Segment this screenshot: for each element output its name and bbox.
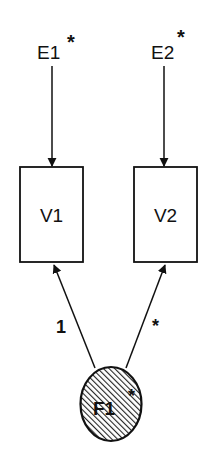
observed-node-v2: V2 (134, 167, 197, 262)
e2-star-marker: * (177, 26, 185, 48)
path-diagram: E1 * E2 * V1 V2 1 * F1 * (0, 0, 210, 470)
f1-label: F1 (93, 398, 116, 419)
e1-label: E1 (37, 42, 60, 63)
error-node-e1: E1 * (37, 31, 75, 63)
latent-node-f1: F1 * (81, 367, 142, 441)
e2-label: E2 (151, 42, 174, 63)
f1-star-marker: * (128, 386, 135, 406)
observed-node-v1: V1 (20, 167, 83, 262)
error-node-e2: E2 * (151, 26, 185, 63)
e1-star-marker: * (67, 31, 75, 53)
path-label-f1-v2: * (152, 316, 159, 336)
v1-label: V1 (40, 205, 63, 226)
v2-label: V2 (154, 205, 177, 226)
path-label-f1-v1: 1 (56, 317, 66, 337)
arrow-f1-v2 (126, 265, 165, 368)
